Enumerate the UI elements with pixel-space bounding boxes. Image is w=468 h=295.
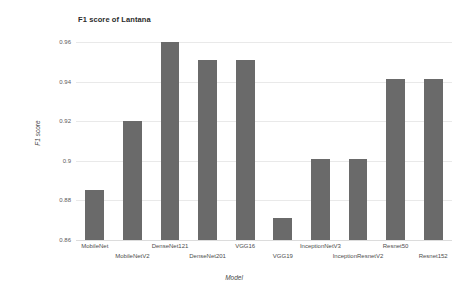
x-tick-label: InceptionResnetV2 bbox=[333, 253, 384, 259]
y-tick-label: 0.9 bbox=[63, 158, 71, 164]
chart-title: F1 score of Lantana bbox=[78, 15, 151, 24]
x-tick-label: VGG16 bbox=[235, 243, 255, 249]
bar bbox=[123, 121, 142, 240]
x-tick-labels: MobileNetMobileNetV2DenseNet121DenseNet2… bbox=[76, 240, 452, 270]
y-tick-label: 0.88 bbox=[59, 197, 71, 203]
bar bbox=[236, 60, 255, 240]
x-tick-label: InceptionNetV3 bbox=[300, 243, 341, 249]
bar bbox=[386, 79, 405, 240]
x-tick-label: Resnet50 bbox=[383, 243, 409, 249]
bar bbox=[85, 190, 104, 240]
x-tick-label: MobileNet bbox=[81, 243, 108, 249]
y-tick-label: 0.96 bbox=[59, 39, 71, 45]
plot-area: 0.860.880.90.920.940.96 bbox=[76, 32, 452, 240]
bar bbox=[273, 218, 292, 240]
x-tick-label: Resnet152 bbox=[419, 253, 448, 259]
bar bbox=[311, 159, 330, 240]
y-tick-label: 0.92 bbox=[59, 118, 71, 124]
x-tick-label: DenseNet121 bbox=[152, 243, 189, 249]
x-tick-label: DenseNet201 bbox=[189, 253, 226, 259]
x-tick-label: VGG19 bbox=[273, 253, 293, 259]
x-tick-label: MobileNetV2 bbox=[115, 253, 149, 259]
bar bbox=[424, 79, 443, 240]
bar bbox=[161, 42, 180, 240]
y-axis-title: F1 score bbox=[34, 103, 41, 163]
bar bbox=[349, 159, 368, 240]
y-tick-label: 0.94 bbox=[59, 79, 71, 85]
bar bbox=[198, 60, 217, 240]
y-tick-label: 0.86 bbox=[59, 237, 71, 243]
chart-container: F1 score of Lantana F1 score 0.860.880.9… bbox=[0, 0, 468, 295]
x-axis-title: Model bbox=[0, 274, 468, 281]
gridline bbox=[76, 42, 452, 43]
